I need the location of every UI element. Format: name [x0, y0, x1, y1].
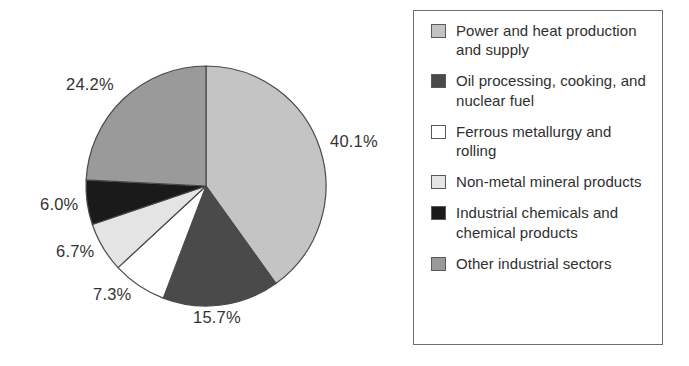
legend-item-label: Other industrial sectors: [456, 254, 611, 273]
legend-item-label: Non-metal mineral products: [456, 172, 642, 191]
legend-item[interactable]: Ferrous metallurgy and rolling: [431, 122, 649, 160]
legend-item[interactable]: Other industrial sectors: [431, 254, 649, 273]
legend-item-label: Oil processing, cooking, and nuclear fue…: [456, 71, 649, 109]
legend-item-label: Ferrous metallurgy and rolling: [456, 122, 649, 160]
pie-slice-value-label: 6.0%: [40, 196, 78, 213]
pie-chart-plot-area: 24.2%40.1%6.0%6.7%7.3%15.7%: [0, 0, 400, 366]
pie-chart-figure: 24.2%40.1%6.0%6.7%7.3%15.7% Power and he…: [0, 0, 689, 366]
legend-swatch-ferrous-metallurgy: [431, 125, 446, 139]
pie-slices-group: [86, 66, 326, 306]
legend-swatch-power-and-heat: [431, 24, 446, 38]
legend-item-label: Power and heat production and supply: [456, 21, 649, 59]
legend-item[interactable]: Power and heat production and supply: [431, 21, 649, 59]
legend-item[interactable]: Oil processing, cooking, and nuclear fue…: [431, 71, 649, 109]
legend-swatch-industrial-chemicals: [431, 206, 446, 220]
legend-swatch-oil-processing: [431, 74, 446, 88]
legend-item[interactable]: Industrial chemicals and chemical produc…: [431, 203, 649, 241]
legend-box: Power and heat production and supplyOil …: [413, 10, 663, 345]
pie-slice-value-label: 6.7%: [56, 243, 94, 260]
pie-slice-value-label: 15.7%: [193, 309, 241, 326]
legend-item-label: Industrial chemicals and chemical produc…: [456, 203, 649, 241]
legend-swatch-non-metal-mineral: [431, 175, 446, 189]
legend-swatch-other-sectors: [431, 257, 446, 271]
pie-slice-value-label: 40.1%: [330, 133, 378, 150]
legend-item[interactable]: Non-metal mineral products: [431, 172, 649, 191]
legend-list: Power and heat production and supplyOil …: [431, 21, 649, 285]
pie-slice-value-label: 24.2%: [66, 76, 114, 93]
pie-slice-value-label: 7.3%: [93, 286, 131, 303]
